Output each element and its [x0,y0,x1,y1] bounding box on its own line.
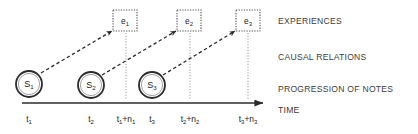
event-label-e3: e3 [244,16,252,24]
state-node-label-s3: S3 [147,81,156,90]
time-tick-label-t3n3: t3+n3 [239,115,258,123]
tick-subscript: 2 [183,119,186,125]
state-node-label-subscript: 1 [30,83,33,90]
tick-subscript-second: 2 [196,119,199,125]
state-node-label-subscript: 2 [92,84,95,91]
tick-subscript-second: 3 [254,119,257,125]
diagram-vector-layer [0,0,418,134]
event-label-main: e [121,15,126,25]
layer-label-causal-relations: CAUSAL RELATIONS [278,53,367,62]
layer-label-progression-of-notes: PROGRESSION OF NOTES [278,85,393,94]
state-node-label-subscript: 3 [153,84,156,91]
state-node-label-s2: S2 [86,81,95,90]
causal-arrow-s1-to-e1 [41,31,112,73]
layer-label-experiences: EXPERIENCES [278,17,342,26]
time-tick-label-t2n2: t2+n2 [181,115,200,123]
diagram-canvas: EXPERIENCESCAUSAL RELATIONSPROGRESSION O… [0,0,418,134]
causal-arrow-s3-to-e3 [163,31,235,75]
time-tick-label-t1n1: t1+n1 [117,115,136,123]
tick-subscript-second: 1 [132,119,135,125]
time-tick-label-t1: t1 [26,115,32,123]
event-label-main: e [244,15,249,25]
causal-arrow-s2-to-e2 [102,31,176,75]
state-node-label-s1: S1 [24,80,33,89]
causal-arrows-group [41,31,235,75]
layer-label-time: TIME [278,106,300,115]
event-label-e2: e2 [185,16,193,24]
event-label-subscript: 3 [249,20,252,26]
event-label-subscript: 2 [190,20,193,26]
tick-subscript: 3 [241,119,244,125]
time-tick-label-t3: t3 [149,115,155,123]
time-tick-label-t2: t2 [88,115,94,123]
tick-subscript: 2 [90,119,93,125]
event-label-e1: e1 [121,16,129,24]
tick-subscript: 3 [151,119,154,125]
tick-subscript: 1 [119,119,122,125]
event-label-main: e [185,15,190,25]
tick-subscript: 1 [28,119,31,125]
event-label-subscript: 1 [126,20,129,26]
